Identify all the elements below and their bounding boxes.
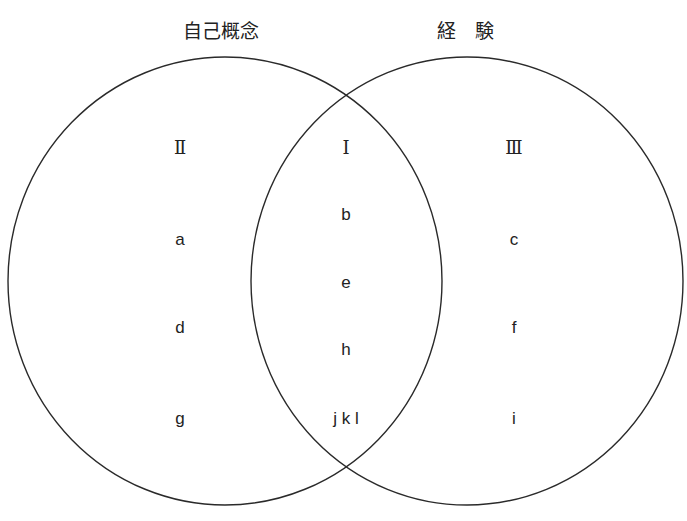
item-c: c — [510, 230, 519, 250]
experience-circle — [251, 57, 683, 505]
experience-title: 経 験 — [437, 16, 494, 43]
item-a: a — [175, 230, 184, 250]
self-concept-circle — [8, 57, 442, 505]
self-concept-title: 自己概念 — [183, 16, 259, 43]
item-d: d — [175, 318, 184, 338]
region-iii-numeral: Ⅲ — [505, 137, 522, 158]
item-h: h — [341, 340, 350, 360]
venn-diagram: 自己概念 経 験 Ⅱ Ⅰ Ⅲ a d g b e h j k l c f i — [0, 0, 687, 521]
item-b: b — [341, 205, 350, 225]
region-i-numeral: Ⅰ — [342, 137, 349, 158]
item-jkl: j k l — [333, 409, 359, 429]
item-e: e — [341, 273, 350, 293]
venn-circles — [0, 0, 687, 521]
region-ii-numeral: Ⅱ — [174, 137, 186, 158]
item-g: g — [175, 409, 184, 429]
item-f: f — [512, 318, 517, 338]
item-i: i — [512, 409, 516, 429]
